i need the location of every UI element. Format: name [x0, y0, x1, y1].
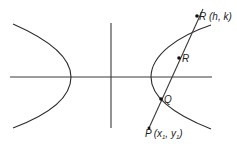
label-p: P(x1, y1)	[145, 128, 183, 140]
point-q	[159, 97, 163, 101]
hyperbola-left-branch	[13, 24, 71, 128]
secant-line	[149, 9, 203, 128]
label-r-hk: R (h, k)	[199, 11, 232, 22]
hyperbola-diagram: R (h, k) R Q P(x1, y1)	[0, 0, 237, 144]
point-r	[177, 56, 181, 60]
label-r: R	[182, 53, 189, 64]
label-q: Q	[164, 94, 172, 105]
